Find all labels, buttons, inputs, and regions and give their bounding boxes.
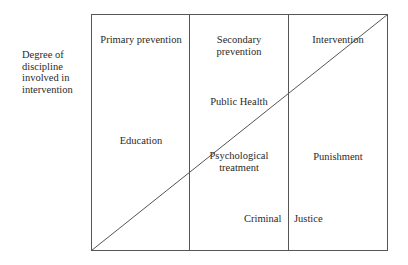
region-education: Education (96, 135, 186, 147)
column-header-primary-prevention: Primary prevention (96, 34, 186, 46)
region-justice: Justice (294, 213, 323, 225)
header-line: prevention (192, 46, 286, 58)
column-header-secondary-prevention: Secondary prevention (192, 34, 286, 58)
region-line: Psychological (192, 150, 286, 162)
region-psychological-treatment: Psychological treatment (192, 150, 286, 174)
region-public-health: Public Health (192, 96, 286, 108)
column-header-intervention: Intervention (292, 34, 384, 46)
region-line: treatment (192, 162, 286, 174)
header-line: Secondary (192, 34, 286, 46)
region-punishment: Punishment (292, 151, 384, 163)
region-criminal: Criminal (244, 213, 281, 225)
